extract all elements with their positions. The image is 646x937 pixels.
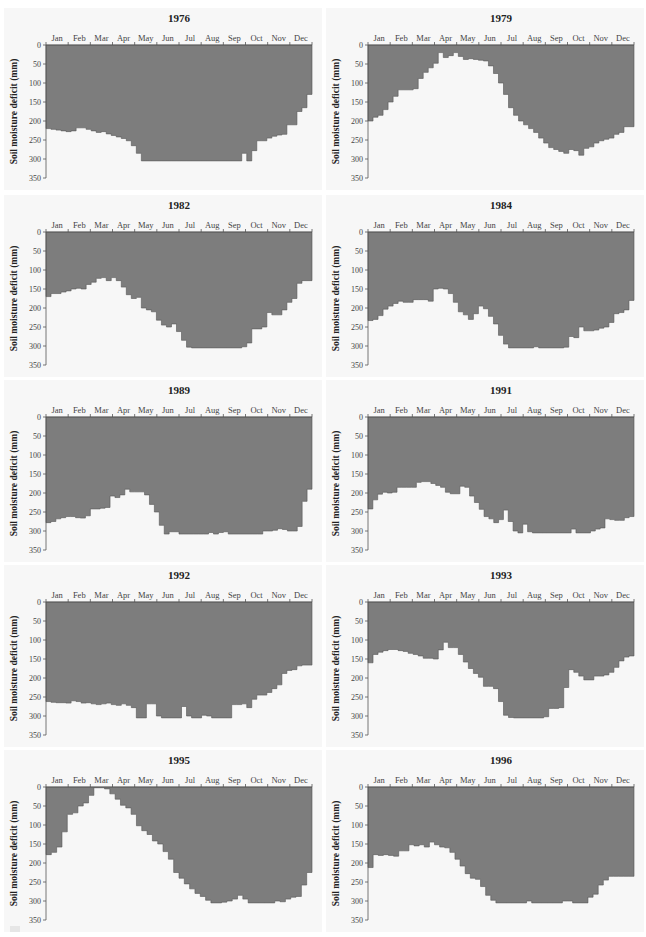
y-axis-label: Soil moisture deficit (mm) <box>331 431 342 537</box>
month-label: Jan <box>51 33 63 43</box>
y-tick-label: 150 <box>29 470 41 479</box>
month-label: Dec <box>294 220 308 230</box>
y-tick-label: 0 <box>37 413 41 422</box>
y-tick-label: 200 <box>29 117 41 126</box>
chart-panel-1992: 1992Soil moisture deficit (mm)0501001502… <box>4 565 322 747</box>
y-tick-label: 300 <box>351 342 363 351</box>
y-tick-label: 100 <box>29 451 41 460</box>
y-tick-label: 0 <box>359 41 363 50</box>
y-axis-label: Soil moisture deficit (mm) <box>331 616 342 722</box>
month-label: Jun <box>162 775 175 785</box>
y-tick-label: 150 <box>29 285 41 294</box>
month-label: Oct <box>572 775 585 785</box>
month-label: Sep <box>550 33 563 43</box>
month-label: Dec <box>294 590 308 600</box>
y-tick-label: 50 <box>33 617 41 626</box>
month-label: Dec <box>294 33 308 43</box>
month-label: May <box>138 405 154 415</box>
month-label: Feb <box>395 405 408 415</box>
y-tick-label: 0 <box>359 413 363 422</box>
y-tick-label: 100 <box>351 451 363 460</box>
month-label: Jan <box>51 590 63 600</box>
y-axis-label: Soil moisture deficit (mm) <box>331 59 342 165</box>
month-label: Jul <box>507 220 518 230</box>
y-axis-label: Soil moisture deficit (mm) <box>9 59 20 165</box>
month-label: Feb <box>395 590 408 600</box>
month-label: Oct <box>572 405 585 415</box>
month-label: Aug <box>205 590 220 600</box>
month-label: Oct <box>572 220 585 230</box>
y-tick-label: 350 <box>29 174 41 183</box>
deficit-area <box>368 45 634 155</box>
month-label: Oct <box>250 590 263 600</box>
y-tick-label: 50 <box>33 247 41 256</box>
y-tick-label: 300 <box>351 712 363 721</box>
y-tick-label: 0 <box>359 228 363 237</box>
month-label: Mar <box>416 405 430 415</box>
y-tick-label: 350 <box>29 361 41 370</box>
month-label: Aug <box>527 33 542 43</box>
y-tick-label: 300 <box>29 527 41 536</box>
deficit-area <box>46 602 312 718</box>
y-axis-label: Soil moisture deficit (mm) <box>331 246 342 352</box>
month-label: Nov <box>593 405 608 415</box>
month-label: Sep <box>228 33 241 43</box>
month-label: Jun <box>162 33 175 43</box>
month-label: Jun <box>162 220 175 230</box>
y-tick-label: 50 <box>355 432 363 441</box>
month-label: Jun <box>162 405 175 415</box>
y-tick-label: 300 <box>29 897 41 906</box>
month-label: Jul <box>185 405 196 415</box>
chart-title: 1989 <box>168 384 191 396</box>
month-label: Sep <box>550 405 563 415</box>
month-label: Apr <box>117 33 130 43</box>
y-tick-label: 150 <box>29 840 41 849</box>
month-label: Aug <box>527 405 542 415</box>
chart-panel-1984: 1984Soil moisture deficit (mm)0501001502… <box>326 195 644 377</box>
month-label: Jan <box>373 775 385 785</box>
y-tick-label: 350 <box>351 731 363 740</box>
y-tick-label: 300 <box>351 527 363 536</box>
month-label: May <box>460 33 476 43</box>
chart-panel-1982: 1982Soil moisture deficit (mm)0501001502… <box>4 195 322 377</box>
month-label: Nov <box>593 220 608 230</box>
y-axis-label: Soil moisture deficit (mm) <box>9 801 20 907</box>
deficit-area <box>46 45 312 161</box>
deficit-area <box>46 787 312 903</box>
y-tick-label: 250 <box>351 693 363 702</box>
month-label: Mar <box>416 220 430 230</box>
month-label: Dec <box>616 220 630 230</box>
deficit-area <box>368 602 634 718</box>
month-label: Apr <box>117 590 130 600</box>
deficit-area <box>368 417 634 533</box>
chart-panel-1991: 1991Soil moisture deficit (mm)0501001502… <box>326 380 644 562</box>
month-label: Mar <box>416 33 430 43</box>
y-axis-label: Soil moisture deficit (mm) <box>9 431 20 537</box>
deficit-area <box>46 232 312 348</box>
month-label: May <box>138 220 154 230</box>
month-label: May <box>138 33 154 43</box>
month-label: Aug <box>527 590 542 600</box>
y-tick-label: 0 <box>359 783 363 792</box>
chart-panel-1993: 1993Soil moisture deficit (mm)0501001502… <box>326 565 644 747</box>
month-label: Oct <box>250 33 263 43</box>
chart-panel-1979: 1979Soil moisture deficit (mm)0501001502… <box>326 8 644 190</box>
month-label: Sep <box>228 590 241 600</box>
month-label: May <box>460 590 476 600</box>
month-label: Jan <box>373 405 385 415</box>
month-label: Jan <box>51 405 63 415</box>
y-tick-label: 200 <box>351 674 363 683</box>
month-label: Nov <box>271 405 286 415</box>
month-label: Feb <box>395 775 408 785</box>
month-label: Nov <box>271 775 286 785</box>
month-label: Feb <box>73 220 86 230</box>
y-tick-label: 150 <box>351 840 363 849</box>
y-tick-label: 350 <box>351 916 363 925</box>
month-label: Nov <box>593 33 608 43</box>
month-label: Jan <box>373 33 385 43</box>
y-tick-label: 250 <box>29 136 41 145</box>
y-tick-label: 100 <box>351 821 363 830</box>
month-label: May <box>460 220 476 230</box>
month-label: Jun <box>484 405 497 415</box>
y-axis-label: Soil moisture deficit (mm) <box>331 801 342 907</box>
